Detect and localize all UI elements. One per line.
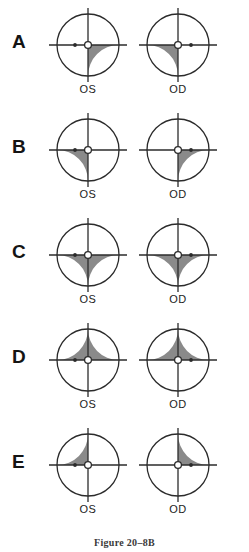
eye-label: OS xyxy=(48,83,128,95)
visual-field-chart xyxy=(138,216,218,294)
fixation-point-marker xyxy=(85,42,92,49)
eye-label: OS xyxy=(48,188,128,200)
row-label: A xyxy=(12,32,26,51)
figure-row-c: COSOD xyxy=(0,210,249,315)
visual-field-chart xyxy=(138,426,218,504)
eye-label: OD xyxy=(138,83,218,95)
eye-label: OS xyxy=(48,503,128,515)
fixation-point-marker xyxy=(85,147,92,154)
eye-field-left: OS xyxy=(48,426,128,522)
visual-field-chart xyxy=(48,321,128,399)
row-label: D xyxy=(12,347,26,366)
eye-field-left: OS xyxy=(48,321,128,417)
figure-row-d: DOSOD xyxy=(0,315,249,420)
blind-spot-marker xyxy=(189,43,193,47)
fixation-point-marker xyxy=(85,462,92,469)
visual-field-figure: AOSODBOSODCOSODDOSODEOSOD Figure 20–8B xyxy=(0,0,249,552)
fixation-point-marker xyxy=(85,357,92,364)
eye-field-left: OS xyxy=(48,6,128,102)
blind-spot-marker xyxy=(73,253,77,257)
figure-row-b: BOSOD xyxy=(0,105,249,210)
fixation-point-marker xyxy=(175,462,182,469)
eye-label: OS xyxy=(48,398,128,410)
eye-field-right: OD xyxy=(138,216,218,312)
figure-caption: Figure 20–8B xyxy=(0,537,249,548)
visual-field-chart xyxy=(48,6,128,84)
row-label: E xyxy=(12,452,25,471)
blind-spot-marker xyxy=(189,463,193,467)
eye-field-right: OD xyxy=(138,6,218,102)
visual-field-rows: AOSODBOSODCOSODDOSODEOSOD xyxy=(0,0,249,525)
fixation-point-marker xyxy=(85,252,92,259)
blind-spot-marker xyxy=(189,358,193,362)
blind-spot-marker xyxy=(189,253,193,257)
blind-spot-marker xyxy=(73,358,77,362)
fixation-point-marker xyxy=(175,357,182,364)
eye-field-left: OS xyxy=(48,111,128,207)
visual-field-chart xyxy=(48,111,128,189)
row-label: C xyxy=(12,242,26,261)
eye-label: OS xyxy=(48,293,128,305)
blind-spot-marker xyxy=(73,43,77,47)
visual-field-chart xyxy=(138,111,218,189)
eye-label: OD xyxy=(138,293,218,305)
eye-field-left: OS xyxy=(48,216,128,312)
blind-spot-marker xyxy=(73,148,77,152)
visual-field-chart xyxy=(48,426,128,504)
eye-label: OD xyxy=(138,398,218,410)
eye-field-right: OD xyxy=(138,111,218,207)
fixation-point-marker xyxy=(175,42,182,49)
visual-field-chart xyxy=(48,216,128,294)
visual-field-chart xyxy=(138,6,218,84)
eye-field-right: OD xyxy=(138,426,218,522)
row-label: B xyxy=(12,137,26,156)
figure-row-e: EOSOD xyxy=(0,420,249,525)
fixation-point-marker xyxy=(175,252,182,259)
fixation-point-marker xyxy=(175,147,182,154)
eye-label: OD xyxy=(138,503,218,515)
blind-spot-marker xyxy=(73,463,77,467)
eye-label: OD xyxy=(138,188,218,200)
visual-field-chart xyxy=(138,321,218,399)
figure-row-a: AOSOD xyxy=(0,0,249,105)
eye-field-right: OD xyxy=(138,321,218,417)
blind-spot-marker xyxy=(189,148,193,152)
